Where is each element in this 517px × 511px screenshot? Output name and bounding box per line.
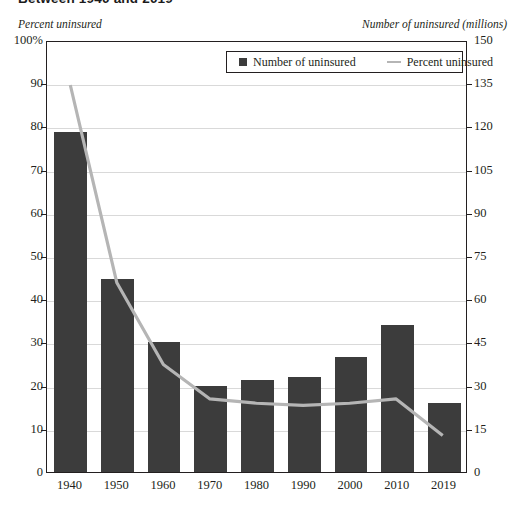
legend-entry-bar: Number of uninsured <box>239 55 356 70</box>
right-tick-label: 105 <box>474 163 493 178</box>
left-tick-mark <box>41 127 46 128</box>
right-tick-label: 90 <box>474 206 487 221</box>
horizontal-line-icon <box>387 61 401 64</box>
x-tick-label: 1950 <box>93 478 140 493</box>
line-series <box>47 42 466 472</box>
right-tick-label: 135 <box>474 76 493 91</box>
x-tick-label: 1980 <box>233 478 280 493</box>
chart-legend: Number of uninsured Percent uninsured <box>226 51 463 73</box>
left-tick-mark <box>41 214 46 215</box>
left-tick-mark <box>41 430 46 431</box>
right-tick-label: 60 <box>474 292 487 307</box>
left-tick-mark <box>41 84 46 85</box>
right-tick-mark <box>467 127 472 128</box>
left-tick-mark <box>41 387 46 388</box>
right-tick-mark <box>467 257 472 258</box>
x-tick-label: 2010 <box>373 478 420 493</box>
page-title: Between 1940 and 2019 <box>18 0 173 6</box>
legend-entry-line: Percent uninsured <box>387 55 493 70</box>
right-tick-mark <box>467 84 472 85</box>
right-tick-label: 45 <box>474 335 487 350</box>
right-tick-mark <box>467 430 472 431</box>
left-tick-mark <box>41 300 46 301</box>
right-tick-label: 15 <box>474 422 487 437</box>
right-tick-label: 120 <box>474 119 493 134</box>
left-axis-caption: Percent uninsured <box>18 18 102 30</box>
x-tick-label: 1990 <box>280 478 327 493</box>
legend-label-bar: Number of uninsured <box>253 55 356 70</box>
left-tick-mark <box>41 343 46 344</box>
x-tick-label: 1960 <box>140 478 187 493</box>
left-tick-mark <box>41 257 46 258</box>
right-tick-label: 0 <box>474 465 480 480</box>
x-tick-label: 1970 <box>186 478 233 493</box>
left-tick-label: 100% <box>14 33 43 48</box>
x-tick-label: 1940 <box>46 478 93 493</box>
right-tick-mark <box>467 387 472 388</box>
right-tick-label: 150 <box>474 33 493 48</box>
plot-inner <box>47 42 466 472</box>
right-tick-mark <box>467 300 472 301</box>
legend-label-line: Percent uninsured <box>407 55 493 70</box>
right-tick-mark <box>467 214 472 215</box>
left-tick-mark <box>41 171 46 172</box>
right-tick-label: 75 <box>474 249 487 264</box>
x-tick-label: 2019 <box>420 478 467 493</box>
plot-area <box>46 41 467 473</box>
filled-square-icon <box>239 58 247 66</box>
x-tick-label: 2000 <box>327 478 374 493</box>
right-tick-label: 30 <box>474 379 487 394</box>
right-tick-mark <box>467 171 472 172</box>
right-tick-mark <box>467 343 472 344</box>
right-axis-caption: Number of uninsured (millions) <box>362 18 507 30</box>
left-tick-label: 0 <box>37 465 43 480</box>
